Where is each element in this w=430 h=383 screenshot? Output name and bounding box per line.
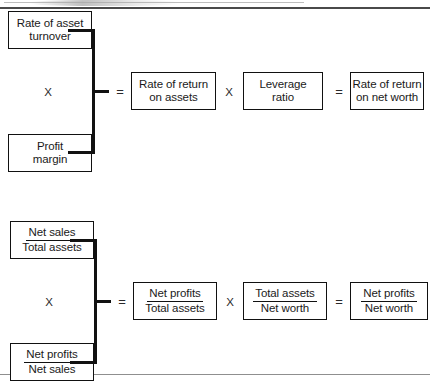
box-rate-of-return-on-net-worth: Rate of return on net worth bbox=[350, 72, 424, 110]
box-total-assets-over-net-worth: Total assets Net worth bbox=[243, 282, 327, 320]
scan-smudge bbox=[30, 0, 180, 6]
box-line-2: margin bbox=[33, 153, 68, 167]
operator-equals-bottom-1: = bbox=[116, 296, 128, 308]
box-line-1: Profit bbox=[37, 140, 63, 154]
fraction-denominator: Total assets bbox=[143, 302, 207, 316]
header-rule bbox=[0, 7, 430, 9]
fraction-denominator: Net worth bbox=[259, 302, 311, 316]
box-line-1: Rate of return bbox=[139, 78, 208, 92]
brace-top bbox=[92, 29, 109, 154]
brace-arm-bottom bbox=[70, 361, 97, 364]
box-rate-of-return-on-assets: Rate of return on assets bbox=[131, 72, 216, 110]
operator-times-bottom-left: X bbox=[42, 296, 56, 308]
fraction-numerator: Total assets bbox=[253, 287, 317, 302]
box-line-2: on assets bbox=[149, 91, 197, 105]
operator-equals-top-1: = bbox=[114, 86, 126, 98]
fraction-denominator: Total assets bbox=[20, 241, 84, 255]
box-line-2: on net worth bbox=[356, 91, 418, 105]
brace-arm-top bbox=[70, 239, 97, 242]
fraction-denominator: Net sales bbox=[26, 363, 77, 377]
brace-bottom bbox=[94, 239, 111, 364]
operator-times-top-left: X bbox=[41, 86, 55, 98]
box-line-2: turnover bbox=[29, 30, 70, 44]
box-line-1: Rate of return bbox=[353, 78, 422, 92]
operator-equals-top-2: = bbox=[333, 86, 345, 98]
box-net-profits-over-total-assets: Net profits Total assets bbox=[133, 282, 217, 320]
box-line-1: Leverage bbox=[259, 78, 306, 92]
brace-arm-bottom bbox=[68, 151, 95, 154]
box-leverage-ratio: Leverage ratio bbox=[243, 72, 323, 110]
box-line-1: Rate of asset bbox=[17, 17, 83, 31]
brace-arm-top bbox=[68, 29, 95, 32]
operator-times-top-1: X bbox=[222, 86, 236, 98]
brace-arm-mid bbox=[97, 300, 111, 303]
fraction-denominator: Net worth bbox=[363, 302, 415, 316]
fraction-numerator: Net profits bbox=[361, 287, 416, 302]
box-line-2: ratio bbox=[272, 91, 294, 105]
fraction-numerator: Net profits bbox=[147, 287, 202, 302]
operator-equals-bottom-2: = bbox=[333, 296, 345, 308]
diagram-page: { "page": { "title": "Du Pont system of … bbox=[0, 0, 430, 383]
brace-arm-mid bbox=[95, 90, 109, 93]
operator-times-bottom-1: X bbox=[223, 296, 237, 308]
scan-hairline-top bbox=[4, 2, 304, 3]
box-net-profits-over-net-worth: Net profits Net worth bbox=[350, 282, 428, 320]
